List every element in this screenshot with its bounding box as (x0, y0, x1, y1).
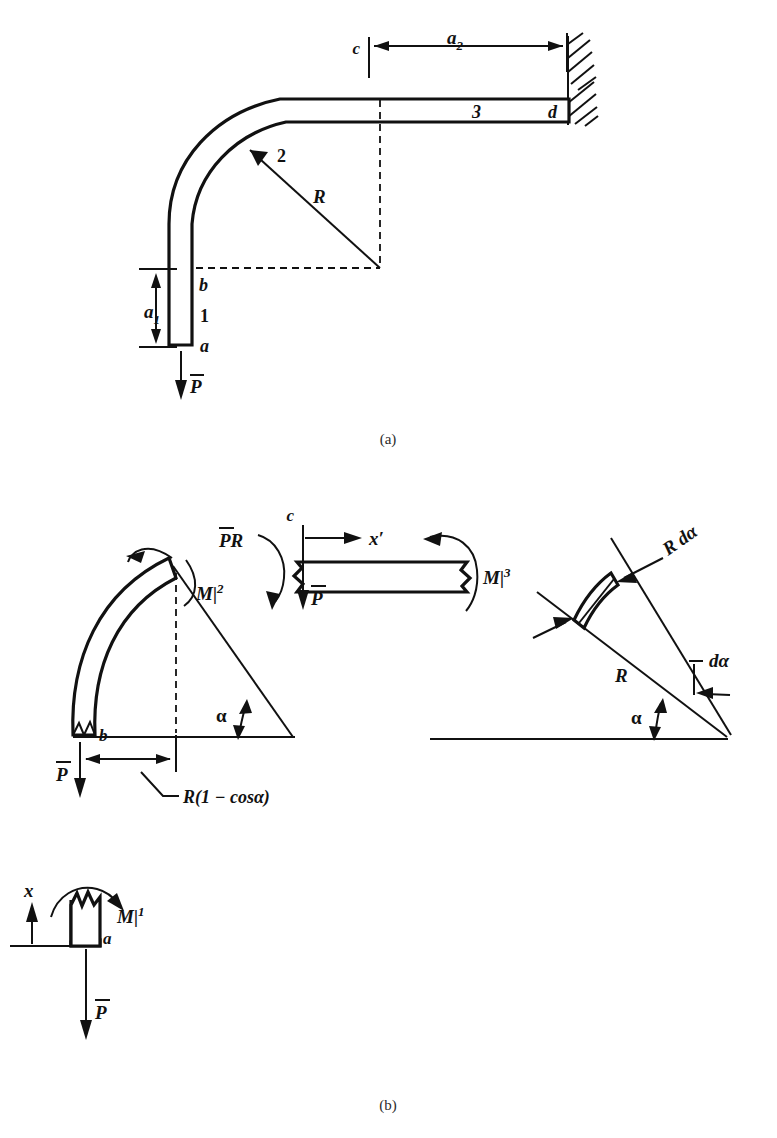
svg-text:PR: PR (218, 530, 243, 551)
d-alpha-label: dα (709, 650, 730, 671)
x-axis-label: x (23, 880, 34, 901)
point-a-label-a: a (200, 336, 209, 356)
leader-line (141, 772, 179, 796)
radius-indicator: R (250, 150, 380, 268)
applied-load-segment-1: P (80, 949, 110, 1040)
dimension-r-one-minus-cos: R(1 − cosα) (80, 735, 270, 808)
element-inner-pointer (533, 617, 574, 638)
beam-body (169, 99, 569, 345)
dimension-a2: a2 c (352, 27, 567, 78)
x-prime-axis: x′ (305, 528, 384, 549)
d-alpha-arrowhead (696, 687, 713, 699)
fbd-segment-1: x M|1 a P (10, 880, 145, 1040)
segment-2-label: 2 (277, 146, 286, 166)
arrowhead-up (151, 273, 161, 288)
x-prime-label: x′ (368, 528, 384, 549)
dimension-a2-label: a2 (447, 27, 464, 53)
moment-arrowhead-3 (423, 532, 442, 546)
point-b-label-a: b (199, 275, 208, 295)
x-axis-segment-1: x (23, 880, 38, 944)
point-a-label-b: a (103, 929, 112, 948)
arrowhead-down (151, 329, 161, 344)
curved-member-outline (73, 558, 176, 735)
figure-canvas: a2 c R 2 3 d b 1 a (0, 0, 777, 1138)
fixed-support-wall (568, 33, 598, 126)
svg-text:P: P (55, 764, 68, 785)
load-arrowhead-3 (297, 590, 309, 610)
radius-label-a: R (312, 186, 326, 207)
svg-text:P: P (189, 376, 202, 397)
radius-label-diff: R (614, 665, 628, 686)
point-c-label-a: c (352, 39, 360, 58)
alpha-arrowhead-top (239, 699, 252, 714)
segment-3-label: 3 (471, 102, 481, 122)
caption-part-b: (b) (379, 1097, 397, 1114)
applied-load-a: P (175, 351, 204, 400)
alpha-label-b: α (216, 705, 227, 726)
arrowhead-left (374, 41, 389, 51)
wedge-hypotenuse (173, 566, 293, 737)
load-label-a: P (189, 375, 204, 397)
fbd-segment-2: M|2 b α P (55, 549, 295, 808)
applied-load-b: P (55, 742, 86, 798)
fbd-segment-3: x′ c M|3 P (218, 506, 511, 611)
load-label-1: P (94, 1000, 110, 1023)
moment-label-3: M|3 (482, 565, 511, 588)
beam-outline (169, 99, 569, 345)
caption-part-a: (a) (380, 431, 397, 448)
point-c-label-b: c (286, 506, 294, 525)
load-arrowhead-a (175, 380, 187, 400)
angle-alpha-indicator-diff: α (631, 698, 667, 741)
couple-label-pr: PR (218, 528, 243, 551)
couple-arc (258, 535, 284, 602)
svg-text:P: P (310, 588, 323, 609)
dimension-a1-label: a1 (144, 301, 160, 327)
svg-text:P: P (94, 1002, 107, 1023)
load-label-b: P (55, 762, 71, 785)
engineering-figure: a2 c R 2 3 d b 1 a (0, 0, 777, 1138)
angle-alpha-indicator-b: α (216, 699, 252, 740)
arrowhead-right (548, 41, 563, 51)
load-arrowhead-1 (80, 1020, 92, 1040)
couple-pr: PR (218, 528, 284, 610)
point-d-label: d (548, 102, 558, 122)
x-prime-arrowhead (344, 532, 362, 544)
x-axis-arrowhead (26, 902, 38, 922)
alpha-label-diff: α (631, 707, 642, 728)
part-a-group: a2 c R 2 3 d b 1 a (139, 27, 598, 448)
part-b-group: M|2 b α P (10, 506, 731, 1114)
moment-label-2: M|2 (195, 581, 224, 604)
arc-length-label: R dα (657, 520, 701, 560)
vertical-member-outline (71, 892, 100, 946)
couple-arrowhead (266, 591, 280, 610)
dim-arrowhead-left (85, 754, 100, 764)
segment-1-label: 1 (200, 306, 209, 326)
element-pointer-arrowhead (553, 617, 574, 629)
arc-length-annotation: R dα (616, 520, 701, 583)
dim-arrowhead-right (156, 754, 171, 764)
ray-2 (611, 538, 731, 735)
moment-label-1: M|1 (116, 904, 145, 927)
alpha-diff-arrowhead-top (654, 698, 667, 713)
fbd-differential-element: R dα R dα α (430, 520, 731, 741)
point-b-label-b: b (99, 726, 108, 745)
load-arrowhead-b (74, 778, 86, 798)
r-one-minus-cos-label: R(1 − cosα) (182, 787, 270, 808)
